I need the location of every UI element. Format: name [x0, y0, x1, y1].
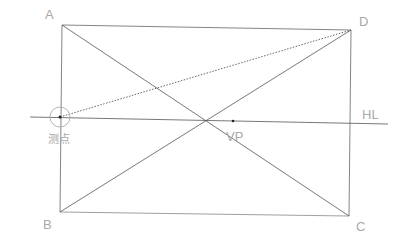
- label-measuring-point: 测点: [48, 133, 70, 146]
- label-a: A: [45, 7, 54, 22]
- measuring-point-dot: [59, 116, 62, 119]
- edge-bc: [60, 212, 349, 216]
- diagonal-bd: [60, 30, 351, 212]
- vanishing-point-dot: [232, 120, 235, 123]
- edge-ab: [60, 25, 62, 212]
- edge-ad: [62, 25, 351, 30]
- label-d: D: [359, 14, 368, 29]
- perspective-diagram: A D B C HL VP 测点: [0, 0, 403, 246]
- label-b: B: [43, 217, 52, 232]
- label-c: C: [356, 219, 365, 234]
- measuring-line: [60, 30, 351, 117]
- label-vp: VP: [226, 129, 243, 144]
- label-hl: HL: [362, 107, 379, 122]
